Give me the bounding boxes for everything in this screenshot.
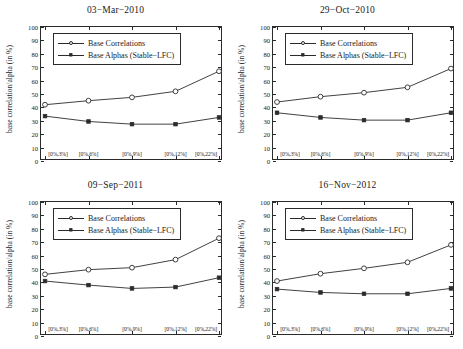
legend-item[interactable]: Base Correlations	[58, 37, 174, 49]
circle-open-icon	[449, 66, 454, 71]
chart-panel: 09−Sep−2011base correlation/alpha (in %)…	[0, 175, 231, 349]
chart-panel: 03−Mar−2010base correlation/alpha (in %)…	[0, 0, 231, 174]
y-axis-label-text: base correlation/alpha (in %)	[237, 45, 246, 133]
square-filled-icon	[319, 291, 323, 295]
y-axis-label: base correlation/alpha (in %)	[234, 199, 248, 329]
y-axis-tick-label: 80	[31, 225, 38, 232]
square-filled-icon	[275, 287, 279, 291]
y-axis-label: base correlation/alpha (in %)	[234, 24, 248, 154]
y-axis-tick-label: 20	[31, 131, 38, 138]
y-axis-tick-label: 40	[31, 104, 38, 111]
y-axis-tick-label: 70	[31, 239, 38, 246]
legend-label: Base Correlations	[320, 39, 377, 48]
circle-open-icon	[86, 267, 91, 272]
chart-title: 03−Mar−2010	[0, 5, 231, 15]
legend-marker-sample	[58, 213, 84, 223]
chart-panel: 29−Oct−2010base correlation/alpha (in %)…	[232, 0, 463, 174]
circle-open-icon	[301, 41, 305, 45]
y-axis-tick-label: 60	[263, 252, 270, 259]
y-axis-tick-label: 20	[263, 131, 270, 138]
legend-item[interactable]: Base Correlations	[58, 212, 174, 224]
legend-item[interactable]: Base Alphas (Stable−LFC)	[58, 224, 174, 236]
legend-label: Base Alphas (Stable−LFC)	[320, 51, 406, 60]
legend-item[interactable]: Base Alphas (Stable−LFC)	[290, 224, 406, 236]
series-line	[277, 69, 451, 103]
legend-label: Base Alphas (Stable−LFC)	[88, 226, 174, 235]
y-axis-tick	[41, 336, 44, 337]
square-filled-icon	[406, 292, 410, 296]
square-filled-icon	[87, 120, 91, 124]
legend-item[interactable]: Base Alphas (Stable−LFC)	[58, 49, 174, 61]
square-filled-icon	[69, 228, 72, 231]
circle-open-icon	[449, 242, 454, 247]
y-axis-tick-label: 100	[28, 199, 38, 206]
y-axis-label-text: base correlation/alpha (in %)	[237, 220, 246, 308]
series-line	[277, 245, 451, 281]
y-axis-tick	[273, 336, 276, 337]
circle-open-icon	[130, 265, 135, 270]
square-filled-icon	[217, 276, 221, 280]
circle-open-icon	[405, 260, 410, 265]
circle-open-icon	[86, 98, 91, 103]
legend-item[interactable]: Base Alphas (Stable−LFC)	[290, 49, 406, 61]
circle-open-icon	[275, 279, 280, 284]
y-axis-label: base correlation/alpha (in %)	[2, 199, 16, 329]
square-filled-icon	[69, 53, 72, 56]
circle-open-icon	[275, 100, 280, 105]
y-axis-tick	[273, 161, 276, 162]
y-axis-tick-label: 80	[263, 225, 270, 232]
y-axis-tick-label: 70	[263, 64, 270, 71]
circle-open-icon	[43, 102, 48, 107]
y-axis-tick-label: 60	[31, 252, 38, 259]
square-filled-icon	[449, 111, 453, 115]
plot-area: 0102030405060708090100[0%,3%][0%,6%][0%,…	[40, 26, 222, 160]
circle-open-icon	[405, 85, 410, 90]
y-axis-tick	[41, 161, 44, 162]
y-axis-tick-label: 90	[31, 212, 38, 219]
circle-open-icon	[217, 69, 222, 74]
legend-label: Base Alphas (Stable−LFC)	[88, 51, 174, 60]
y-axis-tick-label: 30	[263, 117, 270, 124]
y-axis-label-text: base correlation/alpha (in %)	[5, 220, 14, 308]
y-axis-tick-label: 100	[260, 199, 270, 206]
circle-open-icon	[318, 271, 323, 276]
circle-open-icon	[69, 41, 73, 45]
y-axis-tick-label: 0	[35, 333, 38, 340]
legend-item[interactable]: Base Correlations	[290, 37, 406, 49]
square-filled-icon	[301, 228, 304, 231]
y-axis-tick-label: 80	[263, 50, 270, 57]
circle-open-icon	[69, 216, 73, 220]
square-filled-icon	[362, 292, 366, 296]
y-axis-tick-label: 0	[35, 158, 38, 165]
y-axis-tick-label: 50	[31, 266, 38, 273]
legend-item[interactable]: Base Correlations	[290, 212, 406, 224]
y-axis-tick-label: 60	[31, 77, 38, 84]
y-axis-tick-label: 10	[263, 144, 270, 151]
y-axis-tick-label: 50	[31, 91, 38, 98]
y-axis-tick-label: 40	[263, 279, 270, 286]
square-filled-icon	[130, 122, 134, 126]
chart-panel: 16−Nov−2012base correlation/alpha (in %)…	[232, 175, 463, 349]
legend-marker-sample	[290, 38, 316, 48]
plot-area: 0102030405060708090100[0%,3%][0%,6%][0%,…	[272, 26, 454, 160]
y-axis-tick	[450, 161, 453, 162]
square-filled-icon	[130, 287, 134, 291]
y-axis-tick	[218, 336, 221, 337]
square-filled-icon	[174, 285, 178, 289]
y-axis-tick-label: 10	[31, 319, 38, 326]
y-axis-tick-label: 90	[263, 37, 270, 44]
chart-legend: Base CorrelationsBase Alphas (Stable−LFC…	[285, 33, 413, 65]
legend-label: Base Correlations	[320, 214, 377, 223]
y-axis-tick-label: 70	[31, 64, 38, 71]
square-filled-icon	[87, 283, 91, 287]
circle-open-icon	[301, 216, 305, 220]
square-filled-icon	[43, 279, 47, 283]
y-axis-tick-label: 0	[267, 333, 270, 340]
legend-marker-sample	[290, 213, 316, 223]
chart-title: 09−Sep−2011	[0, 180, 231, 190]
y-axis-tick-label: 100	[260, 24, 270, 31]
circle-open-icon	[362, 90, 367, 95]
plot-area: 0102030405060708090100[0%,3%][0%,6%][0%,…	[272, 201, 454, 335]
circle-open-icon	[173, 257, 178, 262]
chart-title: 16−Nov−2012	[232, 180, 463, 190]
